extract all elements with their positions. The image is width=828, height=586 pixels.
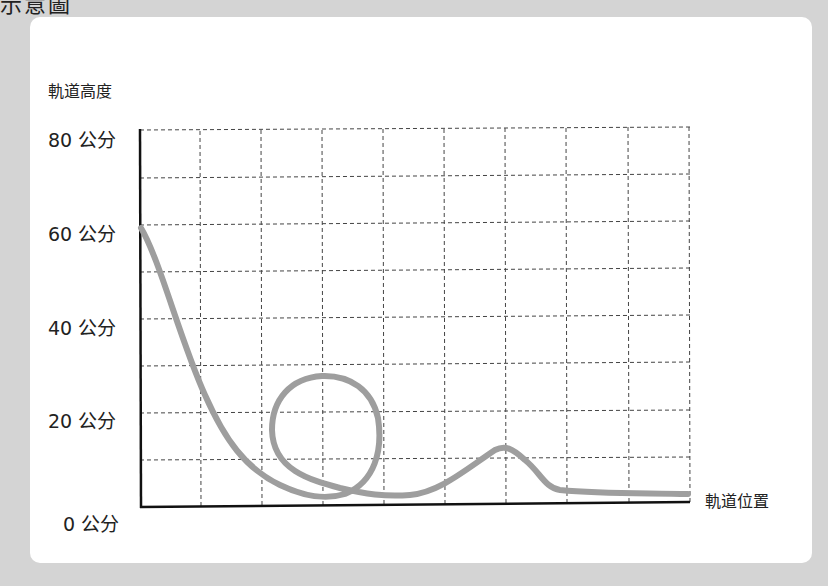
chart-plot [0,0,828,586]
axes [140,129,690,508]
grid-lines [140,127,690,506]
